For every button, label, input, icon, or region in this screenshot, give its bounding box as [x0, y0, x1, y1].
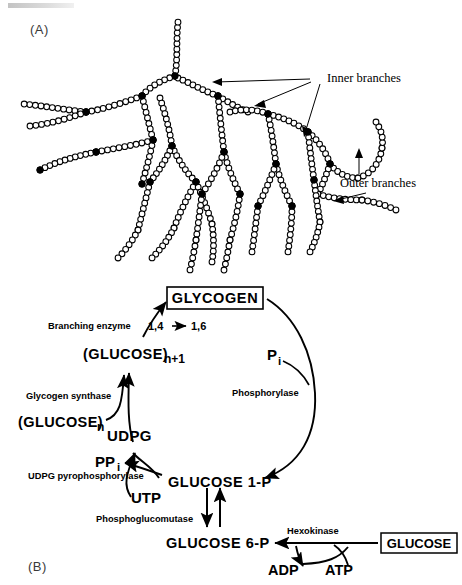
glucose-residue-circle — [289, 215, 295, 221]
glucose-residue-circle — [112, 102, 118, 108]
pathway-svg: GLYCOGEN GLUCOSE (GLUCOSE) n+1 (GLUCOSE)… — [0, 275, 462, 585]
glucose-n-label: (GLUCOSE) — [18, 414, 103, 430]
glucose-residue-circle — [287, 232, 293, 238]
glucose-residue-circle — [272, 155, 278, 161]
glucose-residue-circle — [380, 140, 386, 146]
glucose-residue-circle — [142, 200, 148, 206]
hexokinase-label: Hexokinase — [287, 526, 339, 536]
glucose-residue-circle — [233, 214, 239, 220]
glucose-residue-circle — [320, 193, 326, 199]
glucose-residue-circle — [196, 214, 202, 220]
glucose-residue-circle — [209, 259, 215, 265]
glucose-residue-circle — [50, 119, 56, 125]
glucose-residue-circle — [251, 232, 257, 238]
branch-point-circle — [169, 143, 175, 149]
glucose-residue-circle — [110, 146, 116, 152]
branch-point-circle — [93, 149, 99, 155]
glucose-residue-circle — [190, 255, 196, 261]
glucose-n-plus-1-subscript: n+1 — [164, 352, 185, 366]
glucose-residue-circle — [249, 249, 255, 255]
branch-point-circle — [215, 93, 221, 99]
branch-point-circle — [150, 137, 156, 143]
branch-point-circle — [172, 73, 178, 79]
glucose-residue-circle — [192, 243, 198, 249]
glucose-residue-circle — [175, 19, 181, 25]
glucose-residue-circle — [285, 249, 291, 255]
glucose-residue-circle — [288, 220, 294, 226]
glucose-residue-circle — [268, 128, 274, 134]
glucose-residue-circle — [67, 115, 73, 121]
glucose-residue-circle — [139, 140, 145, 146]
glucose-residue-circle — [166, 127, 172, 133]
glucose-residue-circle — [307, 249, 313, 255]
glucose-residue-circle — [373, 119, 379, 125]
glucose-residue-circle — [61, 106, 67, 112]
glucose-residue-circle — [224, 255, 230, 261]
glucose-residue-circle — [235, 203, 241, 209]
glucose-residue-circle — [220, 143, 226, 149]
glucose-residue-circle — [236, 197, 242, 203]
glucose-residue-circle — [376, 156, 382, 162]
branch-point-circle — [193, 179, 199, 185]
branch-point-circle — [139, 93, 145, 99]
glucose-residue-circle — [234, 209, 240, 215]
glucose-residue-circle — [254, 215, 260, 221]
glucose-residue-circle — [61, 116, 67, 122]
branch-point-circle — [221, 149, 227, 155]
glucose-residue-circle — [148, 148, 154, 154]
glucose-residue-circle — [272, 150, 278, 156]
panel-a-glycogen-structure: Inner branches Outer branches (A) — [0, 0, 462, 280]
glucose-residue-circle — [165, 121, 171, 127]
glucose-residue-circle — [128, 97, 134, 103]
glucose-residue-circle — [127, 143, 133, 149]
adp-label: ADP — [268, 562, 299, 578]
pi-input-line — [283, 361, 309, 385]
glucose-residue-circle — [232, 220, 238, 226]
glucose-residue-circle — [252, 226, 258, 232]
branch-point-circle — [311, 177, 317, 183]
branch-point-circle — [37, 167, 43, 173]
glucose-residue-circle — [189, 261, 195, 267]
glucose-residue-circle — [194, 231, 200, 237]
glucose-residue-circle — [223, 261, 229, 267]
glucose-residue-circle — [143, 110, 149, 116]
glucose-residue-circle — [249, 107, 255, 113]
glucose-residue-circle — [89, 108, 95, 114]
glucose-residue-circle — [197, 208, 203, 214]
branching-enzyme-label: Branching enzyme — [48, 321, 131, 331]
glucose-residue-circle — [142, 170, 148, 176]
glucose-residue-circle — [95, 107, 101, 113]
panel-b-pathway-diagram: GLYCOGEN GLUCOSE (GLUCOSE) n+1 (GLUCOSE)… — [0, 275, 462, 585]
glucose-residue-circle — [122, 144, 128, 150]
inner-branches-label: Inner branches — [327, 71, 401, 85]
glucose-residue-circle — [225, 249, 231, 255]
glucose-residue-circle — [308, 156, 314, 162]
glucose-residue-circle — [269, 133, 275, 139]
branch-point-circle — [139, 181, 145, 187]
glucose-residue-circle — [267, 122, 273, 128]
glucose-residue-circle — [174, 35, 180, 41]
glucose-n-subscript: n — [97, 420, 104, 434]
glucose-residue-circle — [72, 113, 78, 119]
glucose-residue-circle — [378, 151, 384, 157]
glucose-n-plus-1-label: (GLUCOSE) — [83, 346, 168, 362]
glucose-residue-circle — [226, 243, 232, 249]
glucose-residue-circle — [210, 232, 216, 238]
glucose-residue-circle — [251, 238, 257, 244]
glucose-residue-circle — [365, 198, 371, 204]
glucose-residue-circle — [270, 139, 276, 145]
glucose-residue-circle — [49, 105, 55, 111]
glucose-residue-circle — [211, 237, 217, 243]
phosphoglucomutase-label: Phosphoglucomutase — [96, 514, 193, 524]
glucose-residue-circle — [353, 197, 359, 203]
glucose-6p-label: GLUCOSE 6-P — [166, 535, 270, 551]
panel-a-label: (A) — [30, 22, 49, 37]
glucose-residue-circle — [250, 243, 256, 249]
glucose-residue-circle — [326, 194, 332, 200]
glycogen-synthase-label: Glycogen synthase — [26, 391, 111, 401]
glucose-residue-circle — [145, 159, 151, 165]
branch-point-circle — [289, 203, 295, 209]
glucose-residue-circle — [217, 110, 223, 116]
glucose-residue-circle — [33, 122, 39, 128]
glucose-residue-circle — [142, 104, 148, 110]
